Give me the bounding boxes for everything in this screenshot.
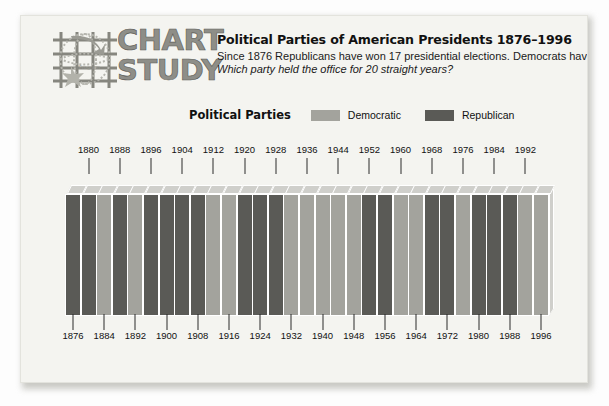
bar-side bbox=[549, 187, 554, 316]
top-year-labels: 1880188818961904191219201928193619441952… bbox=[61, 144, 555, 158]
legend-swatch-democratic bbox=[311, 110, 340, 121]
bar-face bbox=[143, 194, 159, 316]
tick-1988 bbox=[509, 314, 510, 330]
bar-face bbox=[174, 194, 190, 316]
year-label-1892: 1892 bbox=[125, 330, 146, 341]
year-label-1908: 1908 bbox=[187, 330, 208, 341]
tick-1892 bbox=[135, 314, 136, 330]
page-title: Political Parties of American Presidents… bbox=[217, 32, 573, 47]
year-label-1960: 1960 bbox=[390, 144, 411, 155]
tick-1916 bbox=[229, 314, 230, 330]
tick-1932 bbox=[291, 314, 292, 330]
tick-1964 bbox=[416, 314, 417, 330]
header: Program CHART STUDY Political Parties of… bbox=[21, 16, 587, 96]
year-label-1956: 1956 bbox=[374, 330, 395, 341]
tick-1876 bbox=[73, 314, 74, 330]
bar-face bbox=[471, 194, 487, 316]
bar-face bbox=[424, 194, 440, 316]
year-label-1932: 1932 bbox=[281, 330, 302, 341]
bottom-tick-marks bbox=[61, 314, 555, 330]
year-label-1916: 1916 bbox=[218, 330, 239, 341]
screenshot-root: Program CHART STUDY Political Parties of… bbox=[0, 0, 609, 406]
year-label-1952: 1952 bbox=[359, 144, 380, 155]
bar-face bbox=[393, 194, 409, 316]
bar-face bbox=[237, 194, 253, 316]
title-block: Political Parties of American Presidents… bbox=[217, 32, 573, 75]
year-label-1988: 1988 bbox=[499, 330, 520, 341]
legend-label-republican: Republican bbox=[462, 109, 515, 121]
bar-face bbox=[315, 194, 331, 316]
tick-1956 bbox=[385, 314, 386, 330]
tick-1924 bbox=[260, 314, 261, 330]
bar-face bbox=[268, 194, 284, 316]
year-label-1912: 1912 bbox=[203, 144, 224, 155]
tick-1908 bbox=[197, 314, 198, 330]
legend-swatch-republican bbox=[425, 110, 454, 121]
year-label-1972: 1972 bbox=[437, 330, 458, 341]
bar-face bbox=[81, 194, 97, 316]
bar-face bbox=[112, 194, 128, 316]
year-label-1928: 1928 bbox=[265, 144, 286, 155]
bar-face bbox=[159, 194, 175, 316]
year-label-1888: 1888 bbox=[109, 144, 130, 155]
year-label-1992: 1992 bbox=[515, 144, 536, 155]
year-label-1984: 1984 bbox=[484, 144, 505, 155]
year-label-1944: 1944 bbox=[328, 144, 349, 155]
bar-face bbox=[486, 194, 502, 316]
legend-title: Political Parties bbox=[189, 108, 291, 122]
bar-face bbox=[127, 194, 143, 316]
bars-container bbox=[61, 166, 555, 316]
bar-face bbox=[283, 194, 299, 316]
year-label-1896: 1896 bbox=[140, 144, 161, 155]
globe-grid-logo-icon: Program bbox=[49, 28, 121, 90]
legend: Political Parties Democratic Republican bbox=[189, 108, 538, 122]
bar-face bbox=[502, 194, 518, 316]
bar-face bbox=[361, 194, 377, 316]
bar-face bbox=[533, 194, 549, 316]
logo-wordmark: CHART STUDY bbox=[117, 25, 213, 91]
bar-face bbox=[96, 194, 112, 316]
subtitle-line-1: Since 1876 Republicans have won 17 presi… bbox=[217, 50, 573, 62]
subtitle-line-2: Which party held the office for 20 strai… bbox=[217, 63, 573, 75]
tick-1940 bbox=[322, 314, 323, 330]
plot-area: 1880188818961904191219201928193619441952… bbox=[61, 144, 555, 344]
year-label-1880: 1880 bbox=[78, 144, 99, 155]
tick-1972 bbox=[447, 314, 448, 330]
bar-face bbox=[408, 194, 424, 316]
bar-face bbox=[252, 194, 268, 316]
tick-1980 bbox=[478, 314, 479, 330]
bar-face bbox=[205, 194, 221, 316]
chart: 1880188818961904191219201928193619441952… bbox=[21, 144, 588, 344]
year-label-1980: 1980 bbox=[468, 330, 489, 341]
legend-item-republican: Republican bbox=[425, 109, 515, 121]
year-label-1948: 1948 bbox=[343, 330, 364, 341]
year-label-1924: 1924 bbox=[250, 330, 271, 341]
year-label-1876: 1876 bbox=[62, 330, 83, 341]
year-label-1936: 1936 bbox=[296, 144, 317, 155]
logo-word-study: STUDY bbox=[117, 55, 213, 85]
legend-item-democratic: Democratic bbox=[311, 109, 401, 121]
bar-face bbox=[190, 194, 206, 316]
year-label-1884: 1884 bbox=[94, 330, 115, 341]
bar-face bbox=[330, 194, 346, 316]
year-label-1968: 1968 bbox=[421, 144, 442, 155]
year-label-1904: 1904 bbox=[172, 144, 193, 155]
legend-label-democratic: Democratic bbox=[348, 109, 401, 121]
year-label-1920: 1920 bbox=[234, 144, 255, 155]
bar-face bbox=[377, 194, 393, 316]
year-label-1964: 1964 bbox=[406, 330, 427, 341]
bar-face bbox=[439, 194, 455, 316]
logo-word-chart: CHART bbox=[117, 25, 213, 55]
tick-1996 bbox=[541, 314, 542, 330]
bar-face bbox=[346, 194, 362, 316]
bar-face bbox=[221, 194, 237, 316]
year-label-1940: 1940 bbox=[312, 330, 333, 341]
tick-1900 bbox=[166, 314, 167, 330]
svg-text:Program: Program bbox=[79, 64, 100, 71]
year-label-1996: 1996 bbox=[530, 330, 551, 341]
tick-1884 bbox=[104, 314, 105, 330]
chart-study-card: Program CHART STUDY Political Parties of… bbox=[20, 15, 588, 383]
year-label-1900: 1900 bbox=[156, 330, 177, 341]
bar-face bbox=[299, 194, 315, 316]
bar-face bbox=[65, 194, 81, 316]
